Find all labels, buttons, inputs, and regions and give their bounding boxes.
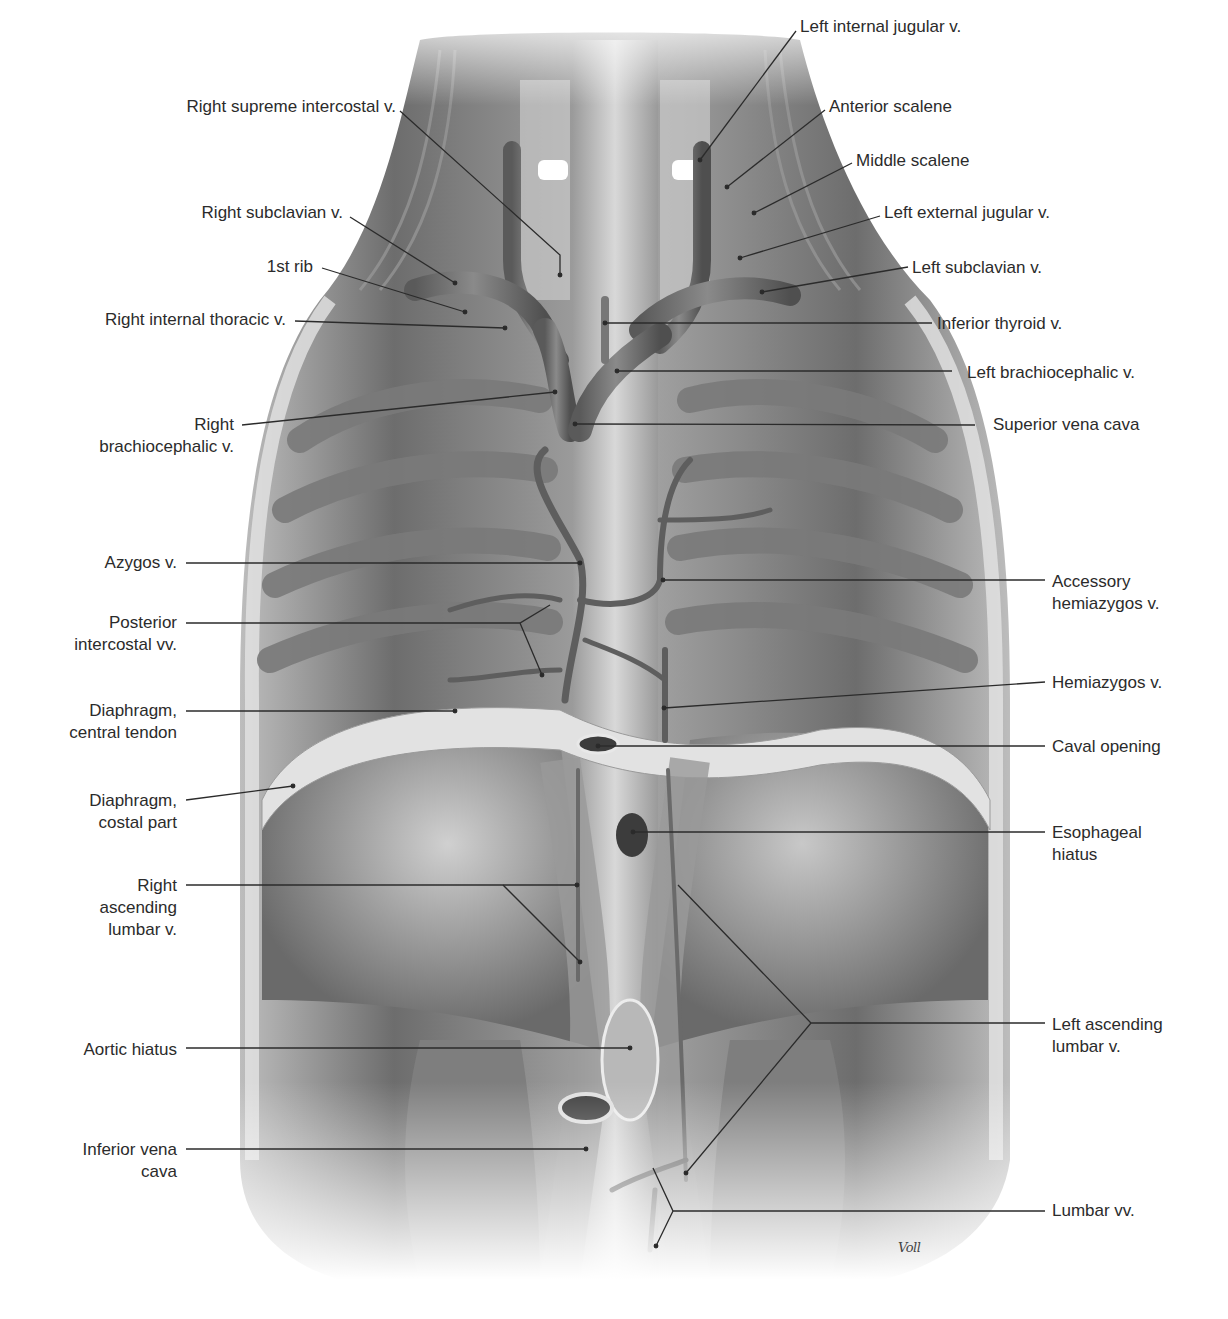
leader-right-ascending-lumbar-v-2-endpoint [578, 960, 582, 964]
label-text: Posterior [74, 612, 177, 634]
label-diaphragm-central-tendon: Diaphragm,central tendon [69, 700, 177, 744]
leader-right-ascending-lumbar-v-endpoint [575, 883, 579, 887]
label-text: Diaphragm, [69, 700, 177, 722]
leader-left-brachiocephalic-v-endpoint [615, 369, 619, 373]
leader-azygos-v-endpoint [578, 561, 582, 565]
label-text: Right supreme intercostal v. [187, 96, 396, 118]
leader-first-rib-endpoint [463, 310, 467, 314]
label-text: Right [99, 414, 234, 436]
leader-right-internal-thoracic-v-endpoint [503, 326, 507, 330]
artist-signature: Voll [898, 1240, 920, 1255]
thorax-abdomen-drawing [0, 0, 1228, 1319]
label-anterior-scalene: Anterior scalene [829, 96, 952, 118]
label-text: Lumbar vv. [1052, 1200, 1135, 1222]
label-accessory-hemiazygos-v: Accessoryhemiazygos v. [1052, 571, 1159, 615]
label-text: Left internal jugular v. [800, 16, 961, 38]
label-diaphragm-costal-part: Diaphragm,costal part [89, 790, 177, 834]
label-text: ascending [99, 897, 177, 919]
leader-right-subclavian-v-endpoint [453, 281, 457, 285]
anatomical-illustration: Right supreme intercostal v.Right subcla… [0, 0, 1228, 1319]
leader-inferior-vena-cava-endpoint [584, 1147, 588, 1151]
label-text: Right internal thoracic v. [105, 309, 286, 331]
leader-aortic-hiatus-endpoint [628, 1046, 632, 1050]
label-right-brachiocephalic-v: Rightbrachiocephalic v. [99, 414, 234, 458]
label-text: costal part [89, 812, 177, 834]
label-inferior-vena-cava: Inferior venacava [83, 1139, 178, 1183]
label-right-ascending-lumbar-v: Rightascendinglumbar v. [99, 875, 177, 941]
label-left-internal-jugular-v: Left internal jugular v. [800, 16, 961, 38]
label-posterior-intercostal-vv: Posteriorintercostal vv. [74, 612, 177, 656]
label-first-rib: 1st rib [267, 256, 313, 278]
label-text: Caval opening [1052, 736, 1161, 758]
label-text: Diaphragm, [89, 790, 177, 812]
leader-anterior-scalene-endpoint [725, 185, 729, 189]
label-text: Left subclavian v. [912, 257, 1042, 279]
label-text: hemiazygos v. [1052, 593, 1159, 615]
label-azygos-v: Azygos v. [105, 552, 177, 574]
leader-hemiazygos-v-endpoint [662, 706, 666, 710]
label-left-subclavian-v: Left subclavian v. [912, 257, 1042, 279]
label-text: Middle scalene [856, 150, 969, 172]
leader-left-external-jugular-v-endpoint [738, 256, 742, 260]
label-text: Left brachiocephalic v. [967, 362, 1135, 384]
label-text: 1st rib [267, 256, 313, 278]
label-right-supreme-intercostal-v: Right supreme intercostal v. [187, 96, 396, 118]
label-lumbar-vv: Lumbar vv. [1052, 1200, 1135, 1222]
label-text: cava [83, 1161, 178, 1183]
leader-superior-vena-cava-endpoint [573, 422, 577, 426]
label-text: Left external jugular v. [884, 202, 1050, 224]
label-text: intercostal vv. [74, 634, 177, 656]
leader-middle-scalene-endpoint [752, 211, 756, 215]
leader-right-brachiocephalic-v-endpoint [553, 390, 557, 394]
label-aortic-hiatus: Aortic hiatus [83, 1039, 177, 1061]
label-text: hiatus [1052, 844, 1142, 866]
label-text: Aortic hiatus [83, 1039, 177, 1061]
leader-posterior-intercostal-vv-endpoint [540, 673, 544, 677]
leader-diaphragm-central-tendon-endpoint [453, 709, 457, 713]
label-left-external-jugular-v: Left external jugular v. [884, 202, 1050, 224]
leader-right-supreme-intercostal-v-endpoint [558, 273, 562, 277]
label-text: Hemiazygos v. [1052, 672, 1162, 694]
label-left-brachiocephalic-v: Left brachiocephalic v. [967, 362, 1135, 384]
label-text: Inferior vena [83, 1139, 178, 1161]
label-inferior-thyroid-v: Inferior thyroid v. [937, 313, 1062, 335]
leader-diaphragm-costal-part-endpoint [291, 784, 295, 788]
label-text: Anterior scalene [829, 96, 952, 118]
label-text: lumbar v. [99, 919, 177, 941]
leader-accessory-hemiazygos-v-endpoint [661, 578, 665, 582]
label-text: Right [99, 875, 177, 897]
label-text: Inferior thyroid v. [937, 313, 1062, 335]
leader-left-subclavian-v-endpoint [760, 290, 764, 294]
label-right-subclavian-v: Right subclavian v. [202, 202, 343, 224]
leader-left-internal-jugular-v-endpoint [698, 158, 702, 162]
leader-left-ascending-lumbar-v-endpoint [684, 1171, 688, 1175]
label-esophageal-hiatus: Esophagealhiatus [1052, 822, 1142, 866]
label-text: Superior vena cava [993, 414, 1139, 436]
label-text: Right subclavian v. [202, 202, 343, 224]
label-text: brachiocephalic v. [99, 436, 234, 458]
label-middle-scalene: Middle scalene [856, 150, 969, 172]
label-text: lumbar v. [1052, 1036, 1163, 1058]
label-text: Azygos v. [105, 552, 177, 574]
label-hemiazygos-v: Hemiazygos v. [1052, 672, 1162, 694]
leader-lumbar-vv-endpoint [654, 1244, 658, 1248]
label-text: Accessory [1052, 571, 1159, 593]
label-right-internal-thoracic-v: Right internal thoracic v. [105, 309, 286, 331]
label-caval-opening: Caval opening [1052, 736, 1161, 758]
leader-esophageal-hiatus-endpoint [631, 830, 635, 834]
label-text: central tendon [69, 722, 177, 744]
leader-caval-opening-endpoint [596, 744, 600, 748]
label-left-ascending-lumbar-v: Left ascendinglumbar v. [1052, 1014, 1163, 1058]
label-text: Left ascending [1052, 1014, 1163, 1036]
leader-inferior-thyroid-v-endpoint [603, 321, 607, 325]
label-superior-vena-cava: Superior vena cava [993, 414, 1139, 436]
label-text: Esophageal [1052, 822, 1142, 844]
